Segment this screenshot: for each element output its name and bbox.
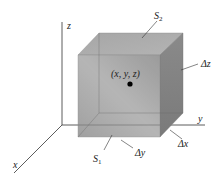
s1-leader: [104, 135, 112, 150]
point-label: (x, y, z): [111, 68, 141, 80]
z-axis-label: z: [66, 20, 71, 31]
volume-element-diagram: z y x (x, y, z) S2 S1 Δz Δx Δy: [0, 0, 223, 185]
y-axis-label: y: [197, 113, 203, 124]
s2-label-sub: 2: [159, 15, 163, 23]
x-axis-label: x: [12, 159, 18, 170]
s1-label: S1: [93, 153, 102, 166]
dy-leader: [121, 140, 133, 148]
dy-label: Δy: [134, 147, 146, 158]
point-marker: [127, 81, 132, 86]
s1-label-sub: 1: [98, 158, 102, 166]
dx-label: Δx: [177, 138, 189, 149]
dz-label: Δz: [200, 58, 211, 69]
s2-label: S2: [154, 10, 163, 23]
dz-leader: [181, 64, 198, 70]
x-axis: [14, 125, 62, 173]
